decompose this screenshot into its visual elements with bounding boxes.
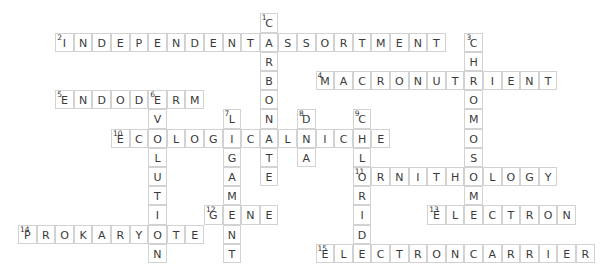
crossword-cell[interactable]: O — [539, 205, 558, 224]
crossword-cell[interactable]: R — [371, 167, 390, 186]
crossword-cell[interactable]: G — [520, 167, 539, 186]
crossword-cell[interactable]: M — [464, 186, 483, 205]
crossword-cell[interactable]: I — [148, 205, 167, 224]
crossword-cell[interactable]: I — [539, 244, 558, 263]
crossword-cell[interactable]: N — [167, 33, 186, 52]
crossword-cell[interactable]: A — [260, 129, 279, 148]
crossword-cell[interactable]: O — [464, 129, 483, 148]
crossword-cell[interactable]: B — [260, 71, 279, 90]
crossword-cell[interactable]: N — [446, 244, 465, 263]
crossword-cell[interactable]: A — [92, 225, 111, 244]
crossword-cell[interactable]: S — [297, 33, 316, 52]
crossword-cell[interactable]: O11 — [353, 167, 372, 186]
crossword-cell[interactable]: T — [260, 148, 279, 167]
crossword-cell[interactable]: D8 — [297, 109, 316, 128]
crossword-cell[interactable]: E — [464, 205, 483, 224]
crossword-cell[interactable]: C — [464, 244, 483, 263]
crossword-cell[interactable]: L — [353, 148, 372, 167]
crossword-cell[interactable]: R — [520, 244, 539, 263]
crossword-cell[interactable]: N — [74, 33, 93, 52]
crossword-cell[interactable]: T — [241, 33, 260, 52]
crossword-cell[interactable]: N — [409, 33, 428, 52]
crossword-cell[interactable]: N — [223, 225, 242, 244]
crossword-cell[interactable]: D — [353, 225, 372, 244]
crossword-cell[interactable]: E5 — [55, 90, 74, 109]
crossword-cell[interactable]: O — [502, 167, 521, 186]
crossword-cell[interactable]: D — [130, 90, 149, 109]
crossword-cell[interactable]: L — [334, 244, 353, 263]
crossword-cell[interactable]: E — [111, 33, 130, 52]
crossword-cell[interactable]: H — [446, 167, 465, 186]
crossword-cell[interactable]: E13 — [427, 205, 446, 224]
crossword-cell[interactable]: M4 — [316, 71, 335, 90]
crossword-cell[interactable]: T — [427, 33, 446, 52]
crossword-cell[interactable]: E — [204, 33, 223, 52]
crossword-cell[interactable]: L — [278, 129, 297, 148]
crossword-cell[interactable]: H — [353, 129, 372, 148]
crossword-cell[interactable]: O — [148, 225, 167, 244]
crossword-cell[interactable]: D — [185, 33, 204, 52]
crossword-cell[interactable]: R — [353, 186, 372, 205]
crossword-cell[interactable]: G — [204, 129, 223, 148]
crossword-cell[interactable]: O — [185, 129, 204, 148]
crossword-cell[interactable]: T — [148, 186, 167, 205]
crossword-cell[interactable]: I — [223, 129, 242, 148]
crossword-cell[interactable]: E — [260, 205, 279, 224]
crossword-cell[interactable]: C — [371, 244, 390, 263]
crossword-cell[interactable]: T — [502, 205, 521, 224]
crossword-cell[interactable]: A — [297, 148, 316, 167]
crossword-cell[interactable]: I — [483, 71, 502, 90]
crossword-cell[interactable]: C — [334, 129, 353, 148]
crossword-cell[interactable]: R — [371, 71, 390, 90]
crossword-cell[interactable]: M — [371, 33, 390, 52]
crossword-cell[interactable]: I2 — [55, 33, 74, 52]
crossword-cell[interactable]: C3 — [464, 33, 483, 52]
crossword-cell[interactable]: C — [130, 129, 149, 148]
crossword-cell[interactable]: N — [260, 109, 279, 128]
crossword-cell[interactable]: R — [502, 244, 521, 263]
crossword-cell[interactable]: N — [74, 90, 93, 109]
crossword-cell[interactable]: C9 — [353, 109, 372, 128]
crossword-cell[interactable]: R — [334, 33, 353, 52]
crossword-cell[interactable]: O — [464, 90, 483, 109]
crossword-cell[interactable]: T — [446, 71, 465, 90]
crossword-cell[interactable]: O — [55, 225, 74, 244]
crossword-cell[interactable]: N — [520, 71, 539, 90]
crossword-cell[interactable]: N — [241, 205, 260, 224]
crossword-cell[interactable]: T — [427, 167, 446, 186]
crossword-cell[interactable]: L — [446, 205, 465, 224]
crossword-cell[interactable]: N — [409, 71, 428, 90]
crossword-cell[interactable]: E — [390, 33, 409, 52]
crossword-cell[interactable]: O — [111, 90, 130, 109]
crossword-cell[interactable]: R — [37, 225, 56, 244]
crossword-cell[interactable]: T — [223, 244, 242, 263]
crossword-cell[interactable]: I — [353, 205, 372, 224]
crossword-cell[interactable]: T — [353, 33, 372, 52]
crossword-cell[interactable]: O — [427, 244, 446, 263]
crossword-cell[interactable]: O — [390, 71, 409, 90]
crossword-cell[interactable]: E15 — [316, 244, 335, 263]
crossword-cell[interactable]: M — [223, 186, 242, 205]
crossword-cell[interactable]: S — [278, 33, 297, 52]
crossword-cell[interactable]: E — [185, 225, 204, 244]
crossword-cell[interactable]: R — [520, 205, 539, 224]
crossword-cell[interactable]: R — [576, 244, 595, 263]
crossword-cell[interactable]: C — [353, 71, 372, 90]
crossword-cell[interactable]: P — [130, 33, 149, 52]
crossword-cell[interactable]: E — [353, 244, 372, 263]
crossword-cell[interactable]: R — [260, 52, 279, 71]
crossword-cell[interactable]: M — [185, 90, 204, 109]
crossword-cell[interactable]: I — [316, 129, 335, 148]
crossword-cell[interactable]: Y — [130, 225, 149, 244]
crossword-cell[interactable]: L — [483, 167, 502, 186]
crossword-cell[interactable]: U — [427, 71, 446, 90]
crossword-cell[interactable]: N — [390, 167, 409, 186]
crossword-cell[interactable]: E10 — [111, 129, 130, 148]
crossword-cell[interactable]: A — [483, 244, 502, 263]
crossword-cell[interactable]: A — [334, 71, 353, 90]
crossword-cell[interactable]: C — [483, 205, 502, 224]
crossword-cell[interactable]: Y — [539, 167, 558, 186]
crossword-cell[interactable]: C1 — [260, 13, 279, 32]
crossword-cell[interactable]: E — [223, 205, 242, 224]
crossword-cell[interactable]: E — [260, 167, 279, 186]
